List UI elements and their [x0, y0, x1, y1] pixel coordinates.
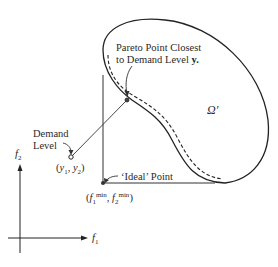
f2-superscript: min — [118, 191, 129, 199]
y-axis-label: f2 — [15, 147, 22, 159]
pareto-front-dashed — [108, 55, 222, 179]
pareto-label-line1: Pareto Point Closest — [116, 42, 201, 54]
demand-coordinates: (y1, y2) — [56, 162, 85, 174]
demand-label-line1: Demand — [33, 128, 69, 140]
pareto-label-line2: to Demand Level y. — [116, 54, 199, 66]
paren-close: ) — [81, 162, 85, 173]
region-label: Ω′ — [207, 104, 218, 116]
f1-subscript: 1 — [92, 198, 96, 206]
y-axis-arrowhead-icon — [18, 164, 23, 171]
pareto-label-vector: y. — [192, 54, 199, 65]
ideal-coordinates: (f1min, f2min) — [86, 192, 133, 204]
paren-close: ) — [129, 192, 133, 203]
pareto-callout-arrow — [126, 66, 132, 94]
f1-superscript: min — [96, 191, 107, 199]
demand-to-pareto-line — [72, 100, 127, 156]
f2-subscript: 2 — [115, 198, 119, 206]
pareto-label-text: to Demand Level — [116, 54, 192, 65]
x-axis-label: f1 — [92, 231, 99, 243]
demand-label-line2: Level — [33, 140, 57, 152]
axis-subscript: 1 — [95, 238, 99, 246]
x-axis-arrowhead-icon — [81, 236, 88, 241]
axis-subscript: 2 — [18, 154, 22, 162]
ideal-point-label: ‘Ideal’ Point — [121, 171, 173, 183]
demand-arrowhead-icon — [69, 150, 74, 155]
pareto-point — [125, 98, 129, 102]
demand-point — [69, 155, 73, 159]
